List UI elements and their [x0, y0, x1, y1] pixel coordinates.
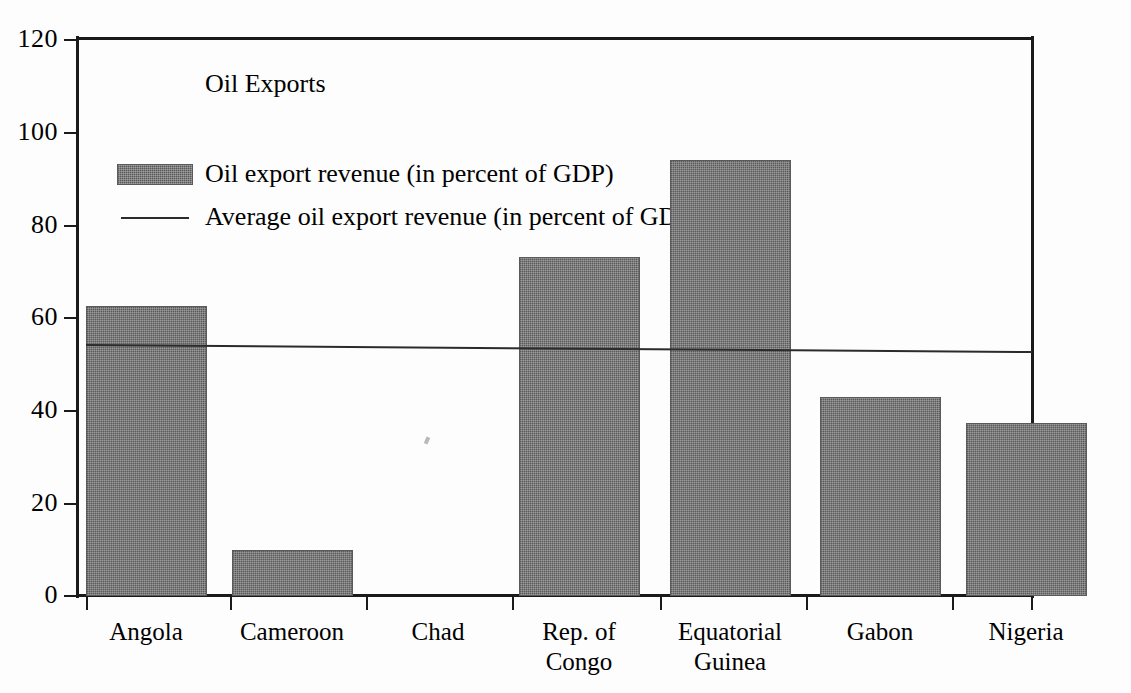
- legend-line-swatch-icon: [117, 207, 193, 228]
- x-tick-3: [512, 596, 514, 610]
- x-tick-0: [86, 596, 88, 610]
- x-label-cameroon-line1: Cameroon: [240, 618, 344, 645]
- bar-angola: [86, 306, 207, 596]
- y-tick-label-20: 20: [0, 490, 58, 516]
- legend-bar-swatch-icon: [117, 164, 193, 185]
- plot-top-border: [76, 37, 1034, 40]
- y-tick-120: [64, 39, 77, 41]
- x-tick-1: [230, 596, 232, 610]
- bar-equatorial-guinea: [670, 160, 791, 596]
- bar-gabon: [820, 397, 941, 596]
- x-label-nigeria: Nigeria: [936, 617, 1116, 647]
- x-label-chad-line1: Chad: [412, 618, 465, 645]
- x-label-gabon-line1: Gabon: [847, 618, 914, 645]
- x-label-rep-of-congo-line1: Rep. of: [542, 618, 616, 645]
- y-tick-label-0: 0: [0, 582, 58, 608]
- y-tick-40: [64, 410, 77, 412]
- bar-cameroon: [232, 550, 353, 596]
- oil-exports-chart-figure: 120 100 80 60 40 20 0 Oil Exports Oil ex…: [0, 0, 1131, 693]
- legend-item-line: Average oil export revenue (in percent o…: [117, 203, 701, 231]
- x-tick-4: [660, 596, 662, 610]
- legend-label-line: Average oil export revenue (in percent o…: [205, 203, 701, 231]
- legend-label-bar: Oil export revenue (in percent of GDP): [205, 160, 614, 188]
- x-label-rep-of-congo-line2: Congo: [546, 648, 613, 675]
- y-tick-100: [64, 132, 77, 134]
- x-tick-2: [366, 596, 368, 610]
- y-tick-label-100: 100: [0, 119, 58, 145]
- y-tick-label-60: 60: [0, 304, 58, 330]
- y-tick-20: [64, 503, 77, 505]
- y-tick-80: [64, 225, 77, 227]
- x-tick-7: [1031, 596, 1033, 610]
- y-tick-0: [64, 595, 77, 597]
- y-tick-label-80: 80: [0, 212, 58, 238]
- x-tick-6: [952, 596, 954, 610]
- x-label-equatorial-guinea-line1: Equatorial: [678, 618, 782, 645]
- y-tick-label-120: 120: [0, 26, 58, 52]
- scan-speck: [424, 436, 431, 444]
- y-tick-60: [64, 317, 77, 319]
- chart-title: Oil Exports: [205, 70, 326, 98]
- bar-nigeria: [966, 423, 1087, 596]
- x-tick-5: [806, 596, 808, 610]
- y-tick-label-40: 40: [0, 397, 58, 423]
- x-label-equatorial-guinea-line2: Guinea: [694, 648, 766, 675]
- x-label-angola-line1: Angola: [109, 618, 183, 645]
- bar-rep-of-congo: [519, 257, 640, 596]
- x-label-nigeria-line1: Nigeria: [989, 618, 1064, 645]
- legend-item-bar: Oil export revenue (in percent of GDP): [117, 160, 614, 188]
